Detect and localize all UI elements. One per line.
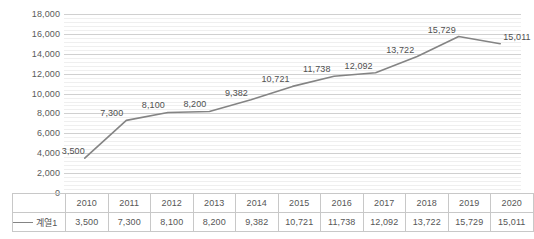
y-tick-label: 18,000 <box>0 10 60 19</box>
series-line-chart <box>64 14 521 193</box>
data-label: 8,200 <box>183 100 206 109</box>
table-header-cell: 2017 <box>363 194 406 213</box>
line-swatch-icon <box>13 222 33 223</box>
table-value-cell: 15,011 <box>491 213 534 232</box>
legend-label: 계열1 <box>36 216 57 229</box>
series-1-line <box>85 37 500 159</box>
table-value-cell: 7,300 <box>108 213 151 232</box>
y-axis: 18,00016,00014,00012,00010,0008,0006,000… <box>0 14 60 193</box>
y-tick-label: 14,000 <box>0 49 60 58</box>
table-header-cell: 2019 <box>448 194 491 213</box>
data-label: 8,100 <box>142 101 165 110</box>
table-value-cell: 8,100 <box>151 213 194 232</box>
data-label: 15,729 <box>428 26 456 35</box>
data-label: 9,382 <box>225 89 248 98</box>
line-chart-with-data-table: 18,00016,00014,00012,00010,0008,0006,000… <box>0 0 534 239</box>
table-value-cell: 12,092 <box>363 213 406 232</box>
table-value-cell: 10,721 <box>278 213 321 232</box>
data-label: 11,738 <box>303 65 330 74</box>
data-table: 2010201120122013201420152016201720182019… <box>12 193 534 232</box>
y-tick-label: 2,000 <box>0 169 60 178</box>
data-label: 3,500 <box>62 147 85 156</box>
table-value-cell: 9,382 <box>236 213 279 232</box>
table-header-cell: 2011 <box>108 194 151 213</box>
data-label: 15,011 <box>503 33 530 42</box>
data-label: 12,092 <box>345 62 373 71</box>
data-label: 13,722 <box>386 46 414 55</box>
table-header-cell: 2018 <box>406 194 449 213</box>
table-value-cell: 11,738 <box>321 213 364 232</box>
table-header-cell: 2016 <box>321 194 364 213</box>
table-header-cell: 2013 <box>193 194 236 213</box>
y-tick-label: 10,000 <box>0 89 60 98</box>
table-header-cell: 2012 <box>151 194 194 213</box>
table-value-cell: 13,722 <box>406 213 449 232</box>
legend-cell: 계열1 <box>13 213 66 232</box>
data-table-container: 2010201120122013201420152016201720182019… <box>12 193 521 232</box>
table-header-cell: 2014 <box>236 194 279 213</box>
table-row-categories: 2010201120122013201420152016201720182019… <box>13 194 534 213</box>
table-header-cell: 2020 <box>491 194 534 213</box>
data-label: 10,721 <box>262 75 290 84</box>
y-tick-label: 12,000 <box>0 69 60 78</box>
y-tick-label: 6,000 <box>0 129 60 138</box>
table-corner-cell <box>13 194 66 213</box>
y-tick-label: 4,000 <box>0 149 60 158</box>
plot-area: 3,5007,3008,1008,2009,38210,72111,73812,… <box>64 14 521 193</box>
table-header-cell: 2010 <box>66 194 109 213</box>
table-value-cell: 15,729 <box>448 213 491 232</box>
data-label: 7,300 <box>100 109 123 118</box>
table-header-cell: 2015 <box>278 194 321 213</box>
y-tick-label: 16,000 <box>0 29 60 38</box>
table-value-cell: 8,200 <box>193 213 236 232</box>
table-row-values: 계열1 3,5007,3008,1008,2009,38210,72111,73… <box>13 213 534 232</box>
y-tick-label: 8,000 <box>0 109 60 118</box>
table-value-cell: 3,500 <box>66 213 109 232</box>
